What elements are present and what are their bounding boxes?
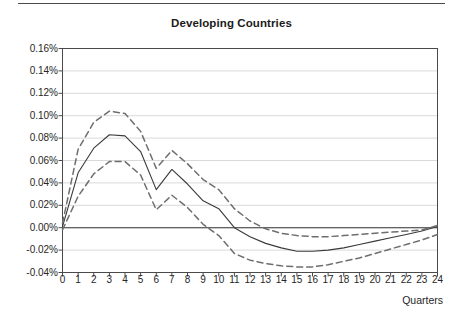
x-axis-tick-labels: 0123456789101112131415161718192021222324 bbox=[0, 0, 463, 319]
chart-figure: Developing Countries 0.16%0.14%0.12%0.10… bbox=[0, 0, 463, 319]
x-tick-label: 24 bbox=[427, 275, 449, 285]
x-axis-title: Quarters bbox=[402, 294, 443, 306]
